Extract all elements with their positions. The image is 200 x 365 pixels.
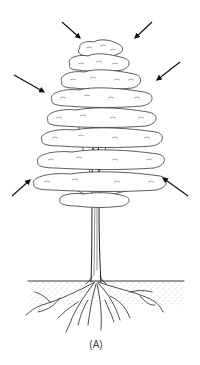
arrow-mid-left (14, 75, 44, 92)
arrow-low-right (163, 178, 188, 196)
tree-crown (33, 40, 166, 208)
arrow-top-right (135, 22, 152, 38)
tree-illustration (0, 0, 200, 365)
arrow-mid-right (157, 62, 180, 80)
arrow-top-left (62, 22, 80, 38)
figure-caption: (A) (0, 339, 192, 350)
arrow-low-left (12, 180, 30, 196)
